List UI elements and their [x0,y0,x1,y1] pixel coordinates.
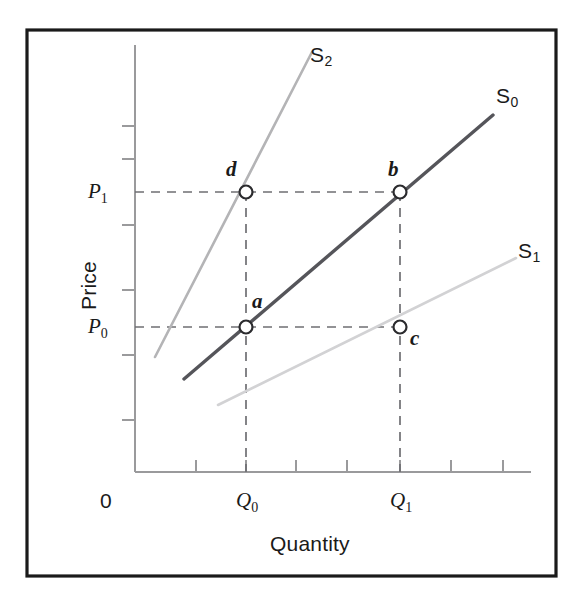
point-label-a: a [252,291,263,312]
y-axis-title: Price [78,261,99,310]
p0-letter: P [88,314,101,338]
s1-letter: S [518,239,532,262]
point-marker-c [394,321,407,334]
curve-s1 [218,258,516,405]
guide-lines [135,192,400,472]
point-marker-d [240,186,253,199]
y-axis-ticks [122,126,135,420]
p0-subscript: 0 [101,326,108,341]
point-marker-a [240,321,253,334]
curve-label-s2: S2 [310,44,332,65]
origin-label: 0 [100,490,112,511]
point-label-c: c [410,328,419,349]
point-label-d: d [226,159,237,180]
curve-s2 [155,52,312,357]
q0-subscript: 0 [251,500,258,515]
s0-letter: S [496,84,510,107]
curve-s0 [184,115,493,379]
x-axis-title: Quantity [270,533,350,554]
x-tick-label-q0: Q0 [236,490,258,511]
s0-subscript: 0 [511,94,519,110]
q1-subscript: 1 [405,500,412,515]
p1-subscript: 1 [101,191,108,206]
q0-letter: Q [236,488,251,512]
x-axis-ticks [196,460,503,472]
x-tick-label-q1: Q1 [390,490,412,511]
supply-curve-figure: Price Quantity 0 P1 P0 Q0 Q1 S2 S0 S1 d … [0,0,568,594]
y-tick-label-p0: P0 [88,316,108,337]
q1-letter: Q [390,488,405,512]
s2-subscript: 2 [325,53,333,69]
s1-subscript: 1 [533,249,541,265]
y-tick-label-p1: P1 [88,181,108,202]
p1-letter: P [88,179,101,203]
curve-label-s0: S0 [496,85,518,106]
curve-label-s1: S1 [518,240,540,261]
point-label-b: b [388,159,399,180]
point-marker-b [394,186,407,199]
s2-letter: S [310,43,324,66]
